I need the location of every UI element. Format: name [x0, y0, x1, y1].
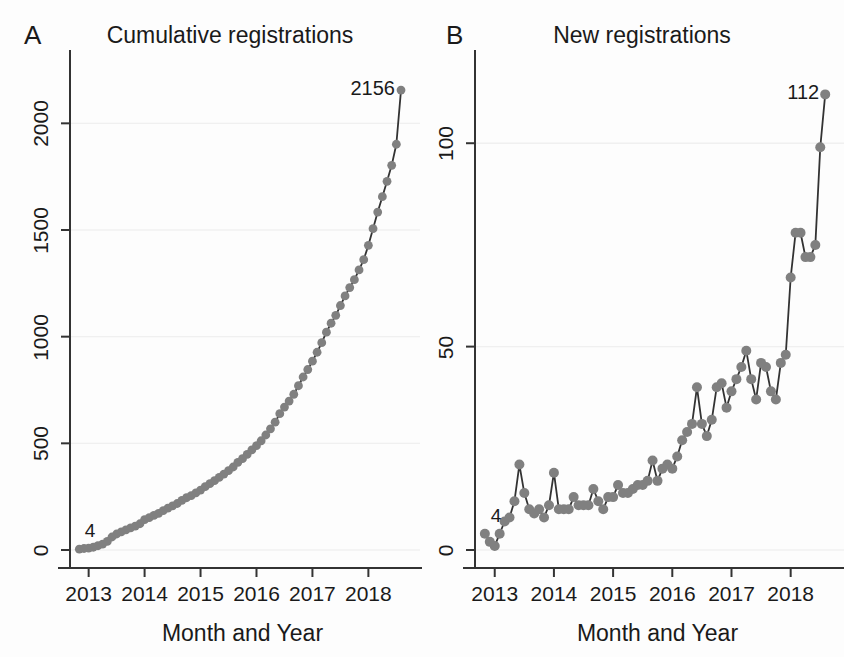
data-point	[736, 362, 746, 372]
data-point	[505, 512, 515, 522]
data-point	[299, 373, 308, 382]
data-point	[303, 365, 312, 374]
end-value-label: 2156	[339, 78, 395, 98]
data-point	[722, 403, 732, 413]
y-tick-label: 2000	[30, 84, 51, 164]
y-tick-label: 0	[435, 511, 456, 591]
data-point	[549, 468, 559, 478]
y-tick-label: 100	[435, 104, 456, 184]
data-point	[308, 357, 317, 366]
data-point	[781, 350, 791, 360]
data-point	[564, 504, 574, 514]
data-point	[672, 451, 682, 461]
x-tick-label: 2014	[115, 583, 175, 604]
data-point	[514, 460, 524, 470]
data-point	[815, 142, 825, 152]
data-point	[731, 374, 741, 384]
y-tick-label: 1500	[30, 191, 51, 271]
x-tick-label: 2017	[701, 583, 761, 604]
data-point	[271, 418, 280, 427]
data-point	[653, 476, 663, 486]
data-point	[289, 390, 298, 399]
data-point	[643, 476, 653, 486]
x-axis-title: Month and Year	[435, 622, 844, 645]
data-point	[820, 89, 830, 99]
data-point	[378, 192, 387, 201]
x-tick-label: 2018	[761, 583, 821, 604]
data-point	[741, 346, 751, 356]
data-point	[387, 161, 396, 170]
data-point	[726, 386, 736, 396]
data-point	[717, 378, 727, 388]
data-point	[519, 488, 529, 498]
data-point	[345, 283, 354, 292]
data-point	[598, 504, 608, 514]
series-line	[79, 90, 401, 549]
start-value-label: 4	[491, 506, 502, 525]
data-point	[687, 419, 697, 429]
data-point	[327, 319, 336, 328]
data-point	[495, 529, 505, 539]
data-point	[341, 292, 350, 301]
data-point	[805, 252, 815, 262]
x-tick-label: 2017	[282, 583, 342, 604]
y-tick-label: 50	[435, 307, 456, 387]
x-tick-label: 2013	[465, 583, 525, 604]
panel-a: A Cumulative registrations 0500100015002…	[0, 0, 422, 657]
data-point	[761, 362, 771, 372]
data-point	[702, 431, 712, 441]
data-point	[697, 419, 707, 429]
data-point	[746, 374, 756, 384]
x-axis-title: Month and Year	[30, 622, 455, 645]
figure-container: A Cumulative registrations 0500100015002…	[0, 0, 844, 657]
data-point	[490, 541, 500, 551]
data-point	[317, 338, 326, 347]
data-point	[588, 484, 598, 494]
end-value-label: 112	[763, 82, 819, 102]
data-point	[539, 512, 549, 522]
data-point	[294, 381, 303, 390]
data-point	[667, 464, 677, 474]
data-point	[810, 240, 820, 250]
data-point	[608, 492, 618, 502]
data-point	[397, 86, 406, 95]
data-point	[544, 500, 554, 510]
data-point	[583, 500, 593, 510]
data-point	[692, 382, 702, 392]
data-point	[336, 301, 345, 310]
data-point	[313, 348, 322, 357]
x-tick-label: 2014	[524, 583, 584, 604]
data-point	[786, 272, 796, 282]
data-point	[751, 394, 761, 404]
data-point	[383, 177, 392, 186]
start-value-label: 4	[85, 521, 96, 540]
x-tick-label: 2016	[642, 583, 702, 604]
data-point	[509, 496, 519, 506]
data-point	[648, 456, 658, 466]
data-point	[771, 394, 781, 404]
y-tick-label: 500	[30, 404, 51, 484]
y-tick-label: 0	[30, 511, 51, 591]
x-tick-label: 2018	[338, 583, 398, 604]
data-point	[350, 275, 359, 284]
x-tick-label: 2013	[59, 583, 119, 604]
data-point	[373, 208, 382, 217]
y-tick-label: 1000	[30, 297, 51, 377]
x-tick-label: 2016	[226, 583, 286, 604]
data-point	[322, 328, 331, 337]
data-point	[331, 311, 340, 320]
data-point	[707, 415, 717, 425]
x-tick-label: 2015	[171, 583, 231, 604]
panel-b: B New registrations 05010020132014201520…	[422, 0, 844, 657]
data-point	[796, 228, 806, 238]
data-point	[369, 224, 378, 233]
data-point	[355, 265, 364, 274]
x-tick-label: 2015	[583, 583, 643, 604]
data-point	[392, 140, 401, 149]
data-point	[364, 241, 373, 250]
data-point	[359, 255, 368, 264]
